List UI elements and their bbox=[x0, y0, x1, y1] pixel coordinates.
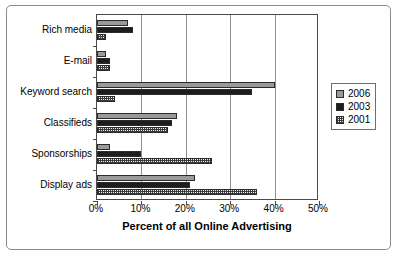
bar-chart-figure: Rich mediaE-mailKeyword searchClassified… bbox=[0, 0, 399, 259]
chart-legend: 200620032001 bbox=[331, 83, 376, 130]
swatch-2006-icon bbox=[336, 90, 344, 98]
plot-area bbox=[96, 14, 318, 200]
x-tick-label: 50% bbox=[298, 203, 338, 215]
bar-2006 bbox=[97, 113, 177, 119]
bar-2001 bbox=[97, 158, 212, 164]
x-tick-label: 0% bbox=[76, 203, 116, 215]
x-tick-label: 40% bbox=[254, 203, 294, 215]
y-axis-label-keyword-search: Keyword search bbox=[4, 86, 92, 97]
y-axis-label-e-mail: E-mail bbox=[4, 55, 92, 66]
legend-label: 2001 bbox=[348, 114, 370, 125]
bar-2001 bbox=[97, 34, 106, 40]
y-axis-label-classifieds: Classifieds bbox=[4, 117, 92, 128]
legend-item-2001[interactable]: 2001 bbox=[336, 113, 370, 126]
gridline-20% bbox=[186, 15, 187, 199]
bar-2003 bbox=[97, 27, 133, 33]
swatch-2001-icon bbox=[336, 116, 344, 124]
bar-group bbox=[97, 144, 319, 165]
bar-2001 bbox=[97, 96, 115, 102]
x-tick-label: 10% bbox=[120, 203, 160, 215]
bar-group bbox=[97, 113, 319, 134]
legend-label: 2006 bbox=[348, 88, 370, 99]
y-tickmark bbox=[93, 108, 97, 109]
bar-2003 bbox=[97, 182, 190, 188]
y-axis-label-rich-media: Rich media bbox=[4, 24, 92, 35]
y-tickmark bbox=[93, 77, 97, 78]
bar-2001 bbox=[97, 127, 168, 133]
y-tickmark bbox=[93, 170, 97, 171]
legend-item-2006[interactable]: 2006 bbox=[336, 87, 370, 100]
swatch-2003-icon bbox=[336, 103, 344, 111]
x-axis-tick-labels: 0%10%20%30%40%50% bbox=[0, 203, 399, 217]
bar-2006 bbox=[97, 20, 128, 26]
bar-2001 bbox=[97, 65, 110, 71]
y-tickmark bbox=[93, 139, 97, 140]
bar-2003 bbox=[97, 120, 172, 126]
legend-item-2003[interactable]: 2003 bbox=[336, 100, 370, 113]
x-tick-label: 20% bbox=[165, 203, 205, 215]
bar-group bbox=[97, 20, 319, 41]
gridline-30% bbox=[230, 15, 231, 199]
y-axis-label-sponsorships: Sponsorships bbox=[4, 148, 92, 159]
x-tick-label: 30% bbox=[209, 203, 249, 215]
y-axis-category-labels: Rich mediaE-mailKeyword searchClassified… bbox=[0, 14, 92, 200]
bar-2006 bbox=[97, 175, 195, 181]
bar-group bbox=[97, 82, 319, 103]
bar-group bbox=[97, 51, 319, 72]
y-axis-label-display-ads: Display ads bbox=[4, 179, 92, 190]
x-axis-title: Percent of all Online Advertising bbox=[96, 220, 318, 233]
bar-2003 bbox=[97, 89, 252, 95]
bar-2001 bbox=[97, 189, 257, 195]
y-tickmark bbox=[93, 46, 97, 47]
bar-group bbox=[97, 175, 319, 196]
bar-2003 bbox=[97, 151, 141, 157]
gridline-10% bbox=[141, 15, 142, 199]
bar-2006 bbox=[97, 82, 275, 88]
gridline-40% bbox=[275, 15, 276, 199]
bar-2006 bbox=[97, 144, 110, 150]
legend-label: 2003 bbox=[348, 101, 370, 112]
bar-2006 bbox=[97, 51, 106, 57]
bar-2003 bbox=[97, 58, 110, 64]
